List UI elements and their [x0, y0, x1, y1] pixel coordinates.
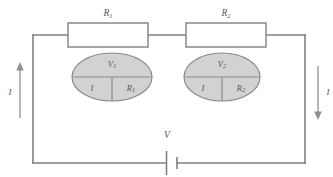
resistor-r1: R1: [68, 8, 148, 47]
meter-ellipse-v2: V2 I R2: [184, 53, 260, 101]
circuit-schematic-canvas: R1 R2 V1 I R1: [0, 0, 333, 177]
current-arrow-right-label: I: [326, 87, 331, 97]
battery-source: V: [164, 130, 177, 175]
current-arrow-right: I: [314, 66, 330, 120]
current-arrow-left: I: [8, 62, 24, 118]
resistor-r1-label: R1: [102, 8, 112, 19]
current-arrow-left-head: [16, 62, 24, 71]
resistor-r2: R2: [186, 8, 266, 47]
current-arrow-right-head: [314, 112, 322, 121]
resistor-r1-body: [68, 23, 148, 47]
battery-voltage-label: V: [164, 130, 171, 140]
current-arrow-left-label: I: [8, 87, 13, 97]
meter-ellipse-v1: V1 I R1: [72, 53, 152, 101]
circuit-diagram: R1 R2 V1 I R1: [0, 0, 333, 177]
circuit-wires: [33, 35, 305, 163]
resistor-r2-body: [186, 23, 266, 47]
resistor-r2-label: R2: [220, 8, 231, 19]
